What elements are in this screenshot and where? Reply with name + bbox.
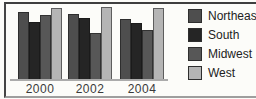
legend-row-south: South (188, 28, 256, 41)
legend-label-midwest: Midwest (208, 47, 252, 61)
bar-west-2004 (153, 8, 164, 79)
legend-row-midwest: Midwest (188, 47, 256, 60)
bar-midwest-2002 (90, 33, 101, 79)
legend-swatch-south (188, 28, 202, 42)
bar-west-2002 (101, 7, 112, 79)
bar-west-2000 (51, 8, 62, 79)
x-tick-label-2000: 2000 (26, 82, 55, 96)
bar-midwest-2000 (40, 15, 51, 79)
bar-northeast-2004 (120, 19, 131, 79)
x-axis-line (10, 79, 168, 81)
bar-south-2002 (79, 18, 90, 79)
legend: NortheastSouthMidwestWest (188, 9, 256, 85)
bar-south-2000 (29, 22, 40, 79)
legend-label-west: West (208, 66, 235, 80)
bar-chart-figure: 200020022004 NortheastSouthMidwestWest (0, 0, 256, 99)
legend-swatch-northeast (188, 9, 202, 23)
legend-swatch-midwest (188, 47, 202, 61)
legend-label-northeast: Northeast (208, 9, 256, 23)
bar-south-2004 (131, 23, 142, 79)
bar-northeast-2000 (18, 12, 29, 79)
bar-midwest-2004 (142, 30, 153, 79)
x-tick-label-2004: 2004 (128, 82, 157, 96)
bar-northeast-2002 (68, 14, 79, 79)
legend-label-south: South (208, 28, 239, 42)
legend-row-west: West (188, 66, 256, 79)
legend-row-northeast: Northeast (188, 9, 256, 22)
x-tick-label-2002: 2002 (76, 82, 105, 96)
legend-swatch-west (188, 66, 202, 80)
